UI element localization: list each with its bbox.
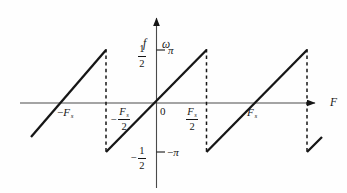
plot-canvas — [0, 0, 347, 193]
fraction-one-half-neg: 1 2 — [138, 145, 146, 170]
pi-glyph: π — [173, 146, 179, 158]
y-tick-label-pi: π — [168, 45, 174, 56]
minus-sign-neg-fs-half: − — [111, 115, 118, 126]
ramp-segment-right — [207, 50, 308, 152]
x-axis-label: F — [330, 97, 337, 109]
sawtooth-phase-figure: f ω F 0 1 2 π − 1 2 −π −Fs − Fs 2 Fs 2 F… — [0, 0, 347, 193]
x-tick-label-pos-fs-half: Fs 2 — [186, 107, 198, 133]
f-glyph-pos-fs: F — [247, 106, 254, 118]
ramp-segment-left — [31, 50, 106, 137]
y-tick-label-neg-pi: −π — [167, 147, 179, 158]
discontinuity-lines — [106, 49, 307, 153]
x-tick-label-neg-fs-half: − Fs 2 — [111, 107, 130, 133]
subscript-s-neg-fs: s — [70, 112, 73, 120]
subscript-s-pos-fs: s — [254, 112, 257, 120]
fraction-fs-over-2-neg: Fs 2 — [118, 106, 130, 132]
origin-label: 0 — [160, 106, 166, 117]
sawtooth-ramps — [31, 50, 322, 152]
y-tick-label-neg-half: − 1 2 — [131, 146, 146, 171]
minus-sign: − — [131, 153, 138, 164]
ramp-segment-far-right-stub — [307, 137, 322, 152]
fraction-numerator-neg: Fs — [118, 106, 130, 120]
x-tick-label-pos-fs: Fs — [247, 107, 257, 120]
y-tick-label-pos-half: 1 2 — [138, 44, 146, 69]
f-glyph-neg-fs: F — [63, 106, 70, 118]
fraction-fs-over-2-pos: Fs 2 — [186, 106, 198, 132]
fraction-numerator-pos: Fs — [186, 106, 198, 120]
fraction-one-half: 1 2 — [138, 43, 146, 68]
x-tick-label-neg-fs: −Fs — [57, 107, 73, 120]
